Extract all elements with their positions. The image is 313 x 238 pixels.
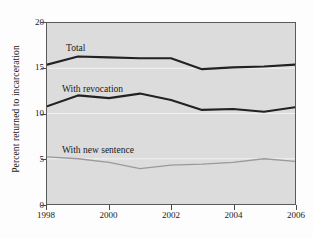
x-tick-label: 2000 (89, 211, 129, 220)
x-tick-mark (171, 205, 172, 210)
y-tick-mark (41, 114, 46, 115)
y-tick-mark (41, 22, 46, 23)
y-tick-mark (41, 68, 46, 69)
series-line (47, 56, 295, 69)
series-label-with-new-sentence: With new sentence (62, 146, 134, 156)
x-tick-label: 2006 (276, 211, 313, 220)
x-tick-mark (109, 205, 110, 210)
series-label-total: Total (66, 44, 85, 54)
x-tick-label: 2002 (151, 211, 191, 220)
x-tick-label: 1998 (26, 211, 66, 220)
x-tick-label: 2004 (214, 211, 254, 220)
y-tick-mark (41, 159, 46, 160)
y-tick-label: 10 (14, 109, 44, 118)
series-line (47, 94, 295, 112)
y-tick-label: 15 (14, 63, 44, 72)
series-label-with-revocation: With revocation (62, 85, 123, 95)
chart-figure: Percent returned to incarceration 051015… (0, 0, 313, 238)
y-tick-label: 5 (14, 155, 44, 164)
x-tick-mark (296, 205, 297, 210)
y-tick-label: 0 (14, 201, 44, 210)
x-tick-mark (234, 205, 235, 210)
x-tick-mark (46, 205, 47, 210)
y-tick-label: 20 (14, 18, 44, 27)
